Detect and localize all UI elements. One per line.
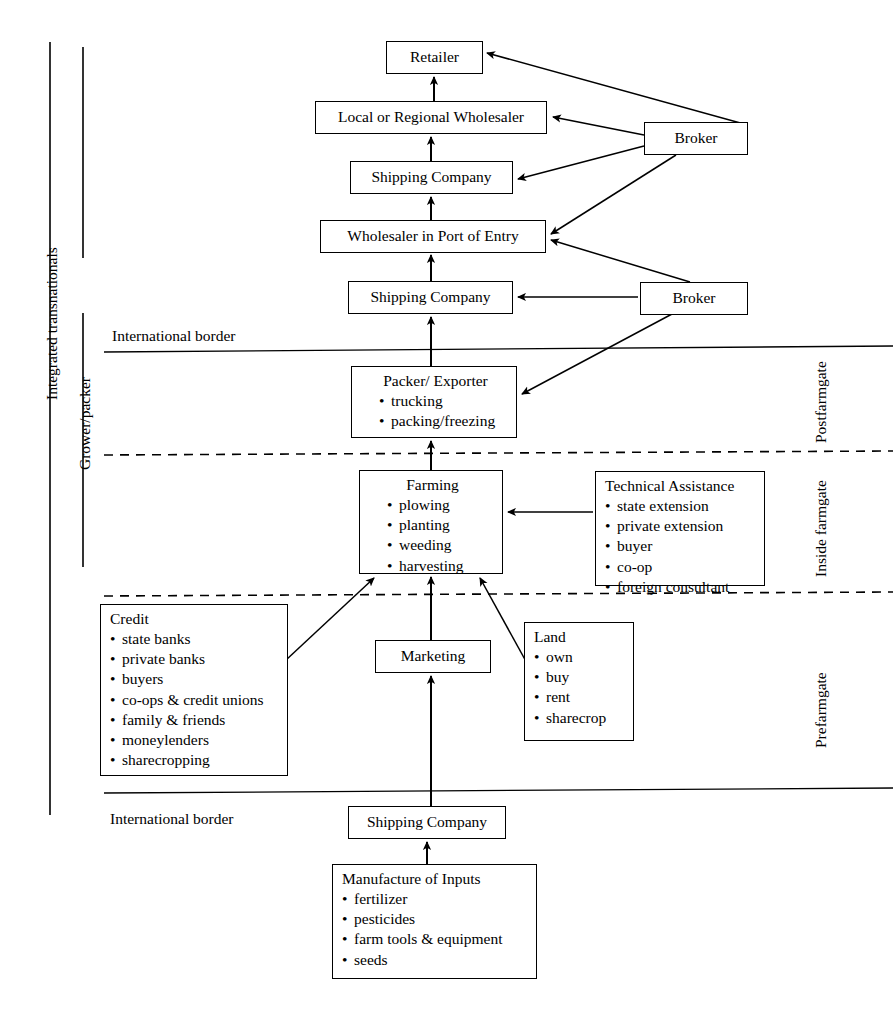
node-credit[interactable]: Credit state banks private banks buyers … bbox=[100, 604, 288, 776]
node-local-or-regional-wholesaler-title: Local or Regional Wholesaler bbox=[338, 107, 524, 127]
node-land[interactable]: Land own buy rent sharecrop bbox=[524, 622, 634, 741]
node-marketing[interactable]: Marketing bbox=[375, 640, 491, 673]
node-credit-title: Credit bbox=[110, 609, 281, 629]
edge-broker2-to-packer bbox=[522, 314, 672, 394]
list-item: moneylenders bbox=[110, 730, 281, 750]
list-item: buyer bbox=[605, 536, 758, 556]
list-item: sharecropping bbox=[110, 750, 281, 770]
international-border-line-top bbox=[104, 346, 893, 352]
node-farming[interactable]: Farming plowing planting weeding harvest… bbox=[359, 470, 503, 574]
node-broker-1-title: Broker bbox=[674, 128, 717, 148]
list-item: planting bbox=[387, 515, 496, 535]
list-item: harvesting bbox=[387, 556, 496, 576]
edge-broker2-to-port bbox=[551, 240, 690, 282]
divider-dashed-inside-farmgate bbox=[104, 592, 893, 596]
node-retailer-title: Retailer bbox=[410, 47, 459, 67]
node-shipping-company-1[interactable]: Shipping Company bbox=[350, 161, 513, 194]
list-item: family & friends bbox=[110, 710, 281, 730]
list-item: fertilizer bbox=[342, 889, 530, 909]
edge-credit-to-farming bbox=[286, 578, 374, 660]
node-credit-items: state banks private banks buyers co-ops … bbox=[110, 629, 281, 770]
list-item: seeds bbox=[342, 950, 530, 970]
node-shipping-company-2-title: Shipping Company bbox=[370, 287, 490, 307]
node-land-title: Land bbox=[534, 627, 627, 647]
list-item: plowing bbox=[387, 495, 496, 515]
list-item: state extension bbox=[605, 496, 758, 516]
list-item: own bbox=[534, 647, 627, 667]
label-international-border-top: International border bbox=[112, 327, 236, 345]
node-broker-2-title: Broker bbox=[672, 288, 715, 308]
node-wholesaler-in-port-of-entry[interactable]: Wholesaler in Port of Entry bbox=[320, 220, 546, 253]
label-international-border-bottom: International border bbox=[110, 810, 234, 828]
node-manufacture-of-inputs-title: Manufacture of Inputs bbox=[342, 869, 530, 889]
node-shipping-company-2[interactable]: Shipping Company bbox=[348, 281, 513, 314]
label-integrated-transnationals: Integrated transnationals bbox=[43, 247, 61, 400]
list-item: packing/freezing bbox=[379, 411, 510, 431]
list-item: state banks bbox=[110, 629, 281, 649]
list-item: co-op bbox=[605, 557, 758, 577]
node-land-items: own buy rent sharecrop bbox=[534, 647, 627, 728]
list-item: sharecrop bbox=[534, 708, 627, 728]
node-farming-title: Farming bbox=[369, 475, 496, 495]
list-item: pesticides bbox=[342, 909, 530, 929]
label-prefarmgate: Prefarmgate bbox=[812, 672, 830, 748]
node-manufacture-of-inputs[interactable]: Manufacture of Inputs fertilizer pestici… bbox=[332, 864, 537, 979]
label-grower-packer: Grower/packer bbox=[76, 377, 94, 470]
node-farming-items: plowing planting weeding harvesting bbox=[369, 495, 496, 576]
label-inside-farmgate: Inside farmgate bbox=[812, 480, 830, 577]
node-packer-exporter-items: trucking packing/freezing bbox=[361, 391, 510, 431]
international-border-line-bottom bbox=[104, 788, 893, 793]
edge-broker1-to-port bbox=[551, 155, 676, 234]
list-item: weeding bbox=[387, 535, 496, 555]
node-broker-2[interactable]: Broker bbox=[640, 282, 748, 315]
node-manufacture-of-inputs-items: fertilizer pesticides farm tools & equip… bbox=[342, 889, 530, 970]
list-item: private extension bbox=[605, 516, 758, 536]
list-item: trucking bbox=[379, 391, 510, 411]
node-technical-assistance[interactable]: Technical Assistance state extension pri… bbox=[595, 471, 765, 586]
node-local-or-regional-wholesaler[interactable]: Local or Regional Wholesaler bbox=[315, 101, 547, 134]
node-shipping-company-1-title: Shipping Company bbox=[371, 167, 491, 187]
divider-dashed-postfarmgate bbox=[104, 451, 893, 455]
list-item: rent bbox=[534, 687, 627, 707]
label-postfarmgate: Postfarmgate bbox=[812, 361, 830, 443]
list-item: buy bbox=[534, 667, 627, 687]
list-item: foreign consultant bbox=[605, 577, 758, 597]
node-marketing-title: Marketing bbox=[401, 646, 466, 666]
node-wholesaler-in-port-of-entry-title: Wholesaler in Port of Entry bbox=[347, 226, 518, 246]
diagram-canvas: Retailer Local or Regional Wholesaler Sh… bbox=[0, 0, 893, 1034]
node-broker-1[interactable]: Broker bbox=[644, 122, 748, 155]
node-shipping-company-3-title: Shipping Company bbox=[367, 812, 487, 832]
node-technical-assistance-items: state extension private extension buyer … bbox=[605, 496, 758, 597]
node-retailer[interactable]: Retailer bbox=[386, 41, 483, 74]
node-packer-exporter[interactable]: Packer/ Exporter trucking packing/freezi… bbox=[351, 366, 517, 438]
list-item: buyers bbox=[110, 669, 281, 689]
node-technical-assistance-title: Technical Assistance bbox=[605, 476, 758, 496]
node-packer-exporter-title: Packer/ Exporter bbox=[361, 371, 510, 391]
list-item: farm tools & equipment bbox=[342, 929, 530, 949]
list-item: co-ops & credit unions bbox=[110, 690, 281, 710]
list-item: private banks bbox=[110, 649, 281, 669]
node-shipping-company-3[interactable]: Shipping Company bbox=[348, 806, 506, 839]
edge-broker1-to-local-wholesaler bbox=[553, 117, 644, 135]
edge-broker1-to-shipping1 bbox=[518, 146, 644, 179]
